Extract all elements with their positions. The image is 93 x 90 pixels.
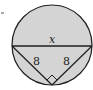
- diameter-label: x: [49, 33, 56, 46]
- right-leg-label: 8: [63, 55, 70, 68]
- left-leg-label: 8: [33, 55, 40, 68]
- geometry-diagram: x 8 8: [0, 0, 93, 90]
